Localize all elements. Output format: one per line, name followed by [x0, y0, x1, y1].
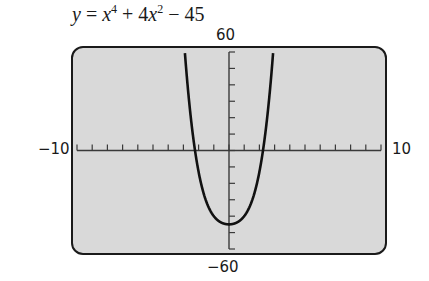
calculator-screen: [0, 0, 429, 281]
